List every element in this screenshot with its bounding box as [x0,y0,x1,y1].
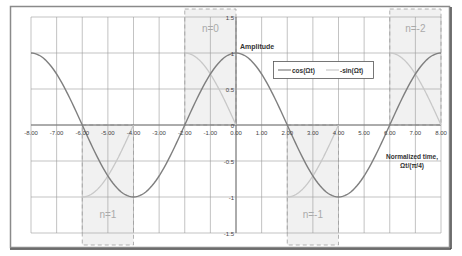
x-tick-label: -1.00 [204,130,218,136]
x-tick-label: -8.00 [24,130,38,136]
annotation-label: n=0 [202,23,219,34]
x-tick-label: 2.00 [281,130,293,136]
x-tick-label: -3.00 [152,130,166,136]
chart: -8.00-7.00-6.00-5.00-4.00-3.00-2.00-1.00… [0,0,462,256]
x-tick-label: 8.00 [435,130,447,136]
legend: cos(Ωt) -sin(Ωt) [274,62,374,79]
x-axis-title-line2: Ωt/(π/4) [400,162,424,170]
x-tick-label: -4.00 [127,130,141,136]
legend-label-cos: cos(Ωt) [292,67,315,75]
x-tick-label: -2.00 [178,130,192,136]
annotation-label: n=-2 [405,23,426,34]
y-tick-label: 1.5 [226,15,235,21]
x-tick-label: 3.00 [307,130,319,136]
x-tick-label: 1.00 [256,130,268,136]
y-axis-title: Amplitude [240,43,274,51]
x-tick-label: 5.00 [358,130,370,136]
annotation-label: n=1 [99,209,116,220]
x-tick-label: -7.00 [50,130,64,136]
legend-label-sin: -sin(Ωt) [340,67,363,75]
y-tick-label: 0.5 [226,87,235,93]
y-tick-label: -1 [229,195,235,201]
x-tick-label: -6.00 [75,130,89,136]
x-tick-label: 0.00 [230,130,242,136]
x-tick-label: 7.00 [410,130,422,136]
x-axis-title-line1: Normalized time, [386,153,438,161]
annotation-label: n=-1 [303,209,324,220]
x-tick-label: 6.00 [384,130,396,136]
x-tick-label: -5.00 [101,130,115,136]
y-tick-label: -0.5 [224,159,235,165]
x-tick-label: 4.00 [333,130,345,136]
y-tick-label: -1.5 [224,231,235,237]
